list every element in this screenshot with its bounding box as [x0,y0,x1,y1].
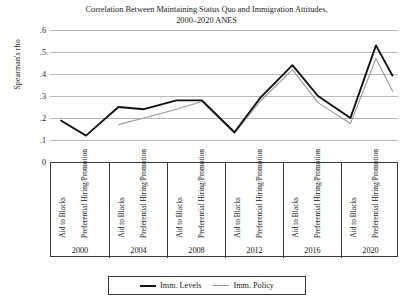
y-tick-0: 0 [24,158,46,167]
legend-swatch-icon [140,285,156,287]
x-category-label: Aid to Blacks [176,197,190,238]
x-category-label: Preferential Hiring/Promotion [81,149,107,238]
legend-label: Imm. Levels [160,281,201,290]
x-group-2016: Aid to Blacks Preferential Hiring/Promot… [283,163,341,258]
line-imm-policy [118,59,392,134]
x-year-label: 2016 [284,246,341,255]
x-axis-groups: Aid to Blacks Preferential Hiring/Promot… [50,162,398,257]
y-tick-0.3: .3 [24,92,46,101]
series-lines [50,30,398,162]
chart-legend: Imm. Levels Imm. Policy [108,276,306,295]
x-year-label: 2008 [168,246,225,255]
x-category-label: Aid to Blacks [118,197,132,238]
line-imm-levels [60,45,392,135]
chart-title-line2: 2000–2020 ANES [0,15,413,26]
x-category-label: Preferential Hiring/Promotion [198,149,224,238]
x-year-label: 2000 [51,246,109,255]
legend-label: Imm. Policy [233,281,273,290]
x-group-2012: Aid to Blacks Preferential Hiring/Promot… [225,163,283,258]
y-tick-0.6: .6 [24,26,46,35]
x-category-label: Aid to Blacks [350,197,364,238]
x-category-label: Aid to Blacks [292,197,306,238]
y-tick-0.4: .4 [24,70,46,79]
x-group-2008: Aid to Blacks Preferential Hiring/Promot… [167,163,225,258]
x-category-label: Aid to Blacks [59,197,73,238]
y-axis-ticks: .6 .5 .4 .3 .2 .1 0 [22,0,46,303]
chart-title-line1: Correlation Between Maintaining Status Q… [0,4,413,15]
x-category-label: Preferential Hiring/Promotion [256,149,282,238]
x-year-label: 2012 [226,246,283,255]
x-year-label: 2004 [110,246,167,255]
x-category-label: Aid to Blacks [234,197,248,238]
chart-container: Correlation Between Maintaining Status Q… [0,0,413,303]
legend-item-imm-levels: Imm. Levels [140,281,201,290]
y-axis-label: Spearman's rho [13,20,22,110]
x-category-label: Preferential Hiring/Promotion [372,149,398,238]
y-tick-0.1: .1 [24,136,46,145]
x-group-2000: Aid to Blacks Preferential Hiring/Promot… [51,163,109,258]
y-tick-0.2: .2 [24,114,46,123]
x-group-2004: Aid to Blacks Preferential Hiring/Promot… [109,163,167,258]
legend-swatch-icon [213,285,229,286]
chart-title-block: Correlation Between Maintaining Status Q… [0,4,413,26]
x-category-label: Preferential Hiring/Promotion [140,149,166,238]
plot-area [50,30,398,162]
x-year-label: 2020 [342,246,399,255]
x-category-label: Preferential Hiring/Promotion [314,149,340,238]
x-group-2020: Aid to Blacks Preferential Hiring/Promot… [341,163,399,258]
y-tick-0.5: .5 [24,48,46,57]
legend-item-imm-policy: Imm. Policy [213,281,273,290]
